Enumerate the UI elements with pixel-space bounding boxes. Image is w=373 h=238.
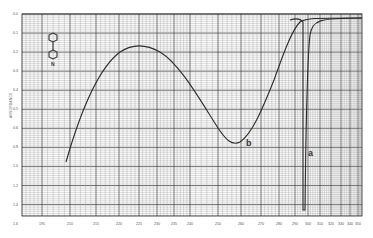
structure-atom-label: N <box>51 61 55 67</box>
x-tick-label: 215 <box>93 222 99 226</box>
x-tick-label: 350 <box>355 222 361 226</box>
y-tick-label: 0.4 <box>13 88 18 92</box>
y-tick-label: 1.0 <box>13 164 18 168</box>
x-tick-label: 230 <box>154 222 160 226</box>
y-tick-label: 0.0 <box>13 12 18 16</box>
chart-background <box>0 0 373 238</box>
x-tick-label: 250 <box>215 222 221 226</box>
y-tick-label: 0.8 <box>13 145 18 149</box>
absorbance-chart: 0.00.10.20.30.40.50.60.81.01.21.41.6 195… <box>0 0 373 238</box>
x-tick-label: 290 <box>292 222 298 226</box>
x-tick-label: 210 <box>67 222 73 226</box>
x-tick-label: 220 <box>116 222 122 226</box>
x-tick-label: 240 <box>187 222 193 226</box>
y-tick-label: 1.6 <box>13 222 18 226</box>
x-tick-label: 320 <box>328 222 334 226</box>
x-tick-label: 270 <box>258 222 264 226</box>
y-axis-title: ABSORBANCE <box>9 92 13 118</box>
x-tick-label: 280 <box>276 222 282 226</box>
y-tick-label: 0.2 <box>13 50 18 54</box>
y-tick-label: 0.5 <box>13 107 18 111</box>
x-tick-label: 340 <box>347 222 353 226</box>
y-tick-label: 0.6 <box>13 126 18 130</box>
y-tick-label: 1.4 <box>13 203 18 207</box>
x-tick-label: 330 <box>338 222 344 226</box>
x-tick-label: 260 <box>238 222 244 226</box>
x-tick-label: 235 <box>171 222 177 226</box>
x-tick-label: 225 <box>136 222 142 226</box>
y-tick-label: 0.1 <box>13 31 18 35</box>
x-tick-label: 310 <box>317 222 323 226</box>
y-tick-label: 0.3 <box>13 69 18 73</box>
x-tick-label: 195 <box>39 222 45 226</box>
y-tick-label: 1.2 <box>13 184 18 188</box>
x-tick-label: 300 <box>305 222 311 226</box>
curve-b-label: b <box>246 138 252 148</box>
